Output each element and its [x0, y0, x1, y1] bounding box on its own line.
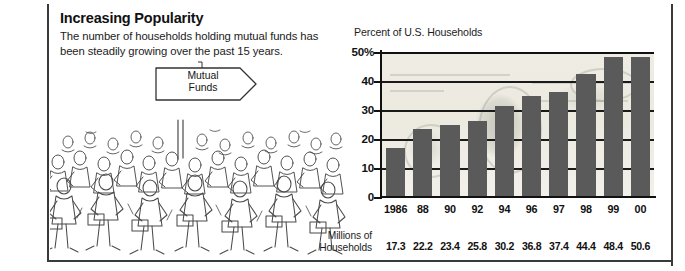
bar-90 [440, 125, 459, 197]
y-tick-label-30: 30 [340, 103, 374, 116]
y-tick-40 [374, 81, 381, 83]
sign-label-line-2: Funds [189, 82, 218, 93]
frame-rule-bottom [47, 260, 673, 262]
millions-row-label-line-1: Millions of [328, 230, 372, 241]
bar-1986 [386, 148, 405, 197]
frame-rule-right [671, 4, 673, 266]
bar-96 [522, 96, 541, 198]
mutual-funds-signpost: Mutual Funds [152, 60, 262, 122]
bar-94 [495, 106, 514, 197]
bar-98 [576, 74, 595, 197]
y-tick-0 [374, 197, 381, 199]
page-title: Increasing Popularity [60, 10, 350, 27]
headline-block: Increasing Popularity The number of hous… [60, 10, 350, 58]
sign-label: Mutual Funds [168, 70, 238, 95]
y-tick-20 [374, 139, 381, 141]
headline-deck-line-1: The number of households holding mutual … [60, 30, 318, 42]
y-tick-30 [374, 110, 381, 112]
frame-rule-left [47, 4, 49, 262]
millions-row-label-line-2: Households [319, 242, 372, 253]
y-tick-label-40: 40 [340, 74, 374, 87]
millions-row-label: Millions of Households [280, 230, 372, 255]
x-tick-label-00: 00 [620, 203, 660, 215]
bar-88 [413, 129, 432, 197]
y-axis [380, 50, 382, 199]
chart-title: Percent of U.S. Households [354, 26, 482, 38]
y-tick-10 [374, 168, 381, 170]
y-tick-label-10: 10 [340, 161, 374, 174]
y-tick-label-50: 50% [340, 45, 374, 58]
headline-deck-line-2: been steadily growing over the past 15 y… [60, 45, 283, 57]
bar-series [382, 52, 654, 197]
sign-label-line-1: Mutual [187, 70, 218, 81]
x-axis [380, 196, 656, 198]
y-tick-label-0: 0 [340, 190, 374, 203]
bar-99 [604, 57, 623, 197]
bar-97 [549, 92, 568, 197]
y-tick-50 [374, 52, 381, 54]
infographic-page: Increasing Popularity The number of hous… [0, 0, 685, 271]
headline-deck: The number of households holding mutual … [60, 29, 350, 59]
millions-value-00: 50.6 [620, 240, 660, 252]
y-tick-label-20: 20 [340, 132, 374, 145]
bar-00 [631, 57, 650, 197]
chart-plot-area [382, 52, 654, 197]
bar-92 [468, 121, 487, 197]
